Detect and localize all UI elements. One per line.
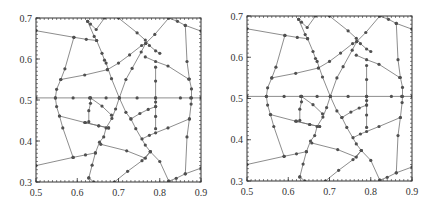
data-point	[140, 159, 143, 162]
data-point	[140, 50, 143, 53]
data-point	[87, 176, 90, 179]
data-point	[359, 42, 362, 45]
data-point	[136, 31, 139, 34]
data-point	[184, 172, 187, 175]
x-tick-label: 0.8	[365, 186, 378, 197]
data-point	[347, 95, 350, 98]
data-point	[72, 156, 75, 159]
x-tick-label: 0.9	[406, 186, 419, 197]
data-point	[295, 152, 298, 155]
data-point	[317, 66, 320, 69]
data-point	[144, 42, 147, 45]
data-point	[329, 95, 332, 98]
data-point	[294, 72, 297, 75]
data-point	[364, 31, 367, 34]
polyline	[55, 37, 74, 157]
data-point	[185, 60, 188, 63]
data-point	[134, 127, 137, 130]
data-point	[351, 42, 354, 45]
data-point	[154, 131, 157, 134]
data-point	[316, 95, 319, 98]
data-point	[89, 102, 92, 105]
data-point	[272, 125, 275, 128]
data-point	[102, 135, 105, 138]
data-point	[302, 163, 305, 166]
polyline	[356, 55, 399, 77]
data-point	[321, 116, 324, 119]
data-point	[149, 150, 152, 153]
x-tick-label: 0.6	[71, 187, 84, 198]
x-tick-label: 0.9	[195, 187, 208, 198]
data-point	[355, 37, 358, 40]
data-point	[306, 37, 309, 40]
data-point	[377, 125, 380, 128]
data-point	[158, 160, 161, 163]
data-point	[265, 95, 268, 98]
data-series	[245, 14, 413, 182]
data-point	[311, 103, 314, 106]
data-point	[148, 44, 151, 47]
data-point	[351, 158, 354, 161]
data-point	[355, 40, 358, 43]
data-point	[95, 28, 98, 31]
data-point	[144, 157, 147, 160]
data-point	[355, 142, 358, 145]
polyline	[396, 23, 402, 172]
data-point	[304, 33, 307, 36]
polyline	[131, 107, 156, 119]
y-tick-label: 0.3	[20, 177, 33, 188]
data-point	[86, 20, 89, 23]
data-point	[270, 76, 273, 79]
data-point	[97, 124, 100, 127]
data-point	[401, 95, 404, 98]
data-point	[358, 106, 361, 109]
data-point	[387, 18, 390, 21]
data-point	[359, 132, 362, 135]
data-point	[144, 39, 147, 42]
data-point	[154, 127, 157, 130]
data-point	[117, 62, 120, 65]
data-point	[396, 134, 399, 137]
polyline	[325, 151, 361, 182]
plot-left: 0.50.60.70.80.90.30.40.50.60.7	[0, 0, 214, 208]
data-point	[188, 117, 191, 120]
data-point	[306, 26, 309, 29]
data-point	[328, 60, 331, 63]
data-point	[103, 59, 106, 62]
data-point	[377, 63, 380, 66]
data-point	[283, 155, 286, 158]
data-point	[63, 67, 66, 70]
data-point	[128, 53, 131, 56]
data-point	[131, 67, 134, 70]
data-point	[349, 111, 352, 114]
y-tick-label: 0.6	[20, 54, 33, 65]
data-point	[311, 50, 314, 53]
data-point	[360, 149, 363, 152]
data-point	[401, 86, 404, 89]
data-point	[342, 65, 345, 68]
data-point	[110, 117, 113, 120]
data-point	[297, 18, 300, 21]
data-point	[300, 21, 303, 24]
data-point	[84, 153, 87, 156]
data-point	[190, 103, 193, 106]
data-point	[296, 36, 299, 39]
data-point	[72, 36, 75, 39]
data-point	[166, 64, 169, 67]
data-point	[351, 49, 354, 52]
y-tick-label: 0.6	[231, 52, 244, 63]
data-point	[94, 151, 97, 154]
data-point	[337, 169, 340, 172]
data-point	[89, 96, 92, 99]
x-tick-label: 0.7	[112, 187, 125, 198]
data-point	[54, 96, 57, 99]
data-point	[158, 52, 161, 55]
data-point	[365, 113, 368, 116]
data-point	[140, 137, 143, 140]
data-point	[107, 126, 110, 129]
plot-right: 0.50.60.70.80.90.30.40.50.60.7	[214, 0, 428, 208]
data-point	[72, 96, 75, 99]
data-point	[59, 78, 62, 81]
data-point	[266, 86, 269, 89]
data-point	[190, 87, 193, 90]
